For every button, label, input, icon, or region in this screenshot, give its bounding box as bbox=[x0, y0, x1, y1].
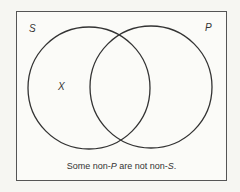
caption-part1: Some non- bbox=[67, 161, 111, 171]
caption: Some non-P are not non-S. bbox=[16, 161, 227, 171]
set-label-p: P bbox=[205, 23, 212, 33]
circle-p bbox=[90, 26, 212, 148]
mark-x: X bbox=[58, 82, 65, 92]
set-label-s: S bbox=[29, 24, 36, 34]
circle-s bbox=[28, 27, 150, 149]
caption-part3: are not non- bbox=[117, 161, 168, 171]
caption-part5: . bbox=[174, 161, 177, 171]
